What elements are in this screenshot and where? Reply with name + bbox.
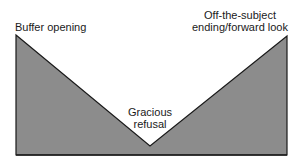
gracious-refusal-line-1: Gracious xyxy=(128,106,172,118)
forward-look-line-1: Off-the-subject xyxy=(192,9,288,21)
buffer-opening-label: Buffer opening xyxy=(15,21,86,33)
forward-look-label: Off-the-subject ending/forward look xyxy=(192,9,288,33)
buffer-opening-text: Buffer opening xyxy=(15,21,86,33)
gracious-refusal-label: Gracious refusal xyxy=(128,106,172,130)
forward-look-line-2: ending/forward look xyxy=(192,21,288,33)
gracious-refusal-line-2: refusal xyxy=(128,118,172,130)
bad-news-message-structure-diagram: Buffer opening Off-the-subject ending/fo… xyxy=(0,0,303,166)
v-shape-fill xyxy=(16,35,287,155)
